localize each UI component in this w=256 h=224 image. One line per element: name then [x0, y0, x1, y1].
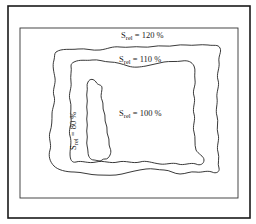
contour-label-120: Srel = 120 % — [121, 31, 164, 42]
label-value: = 80 % — [68, 112, 78, 139]
contour-label-110: Srel = 110 % — [119, 55, 161, 66]
label-value: = 100 % — [131, 108, 162, 118]
label-subscript: rel — [72, 138, 79, 145]
contour-figure: Srel = 120 % Srel = 110 % Srel = 100 % S… — [0, 0, 256, 224]
label-subscript: rel — [124, 112, 131, 119]
label-value: = 120 % — [133, 30, 164, 40]
label-subscript: rel — [126, 34, 133, 41]
label-subscript: rel — [124, 58, 131, 65]
label-symbol: S — [68, 145, 78, 150]
contour-label-80: Srel = 80 % — [69, 112, 80, 150]
contour-label-100: Srel = 100 % — [119, 109, 162, 120]
label-value: = 110 % — [131, 54, 162, 64]
contour-line-80 — [87, 79, 111, 161]
